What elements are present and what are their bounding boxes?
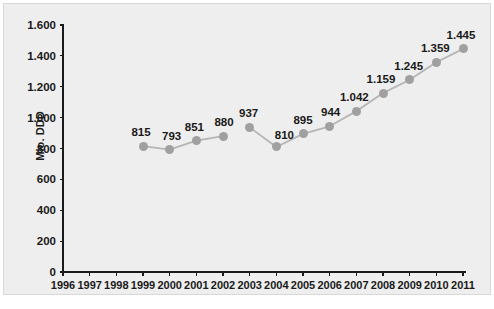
data-point-label: 1.445	[447, 29, 476, 41]
x-axis-tick-label: 2007	[344, 279, 368, 291]
data-point-marker	[352, 107, 361, 116]
data-point-label: 815	[131, 126, 150, 138]
x-axis-tick-label: 2010	[424, 279, 448, 291]
y-axis-tick-label: 1.600	[4, 19, 56, 31]
y-axis-tick-label: 200	[4, 235, 56, 247]
y-axis-tick-label: 600	[4, 173, 56, 185]
data-point-marker	[459, 44, 468, 53]
data-point-label: 1.245	[394, 60, 423, 72]
data-point-label: 810	[275, 129, 294, 141]
data-point-marker	[379, 89, 388, 98]
y-axis-tick-label: 1.000	[4, 112, 56, 124]
x-axis-tick-label: 2004	[264, 279, 288, 291]
data-point-label: 851	[185, 121, 204, 133]
data-point-label: 1.042	[340, 91, 369, 103]
x-axis-tick-label: 2000	[157, 279, 181, 291]
data-point-marker	[139, 142, 148, 151]
data-point-label: 937	[239, 107, 258, 119]
chart-figure: Mio. DDD 02004006008001.0001.2001.4001.6…	[0, 0, 494, 309]
x-axis-tick-label: 2003	[237, 279, 261, 291]
x-axis-tick-label: 2009	[397, 279, 421, 291]
data-point-label: 1.159	[367, 73, 396, 85]
y-axis-tick-label: 1.200	[4, 81, 56, 93]
data-point-label: 880	[214, 116, 233, 128]
y-axis-tick-label: 400	[4, 204, 56, 216]
y-axis-tick-label: 800	[4, 143, 56, 155]
x-axis-tick-label: 2011	[451, 279, 475, 291]
data-point-marker	[325, 122, 334, 131]
data-point-marker	[432, 58, 441, 67]
data-point-label: 895	[293, 114, 312, 126]
data-point-label: 793	[162, 130, 181, 142]
x-axis-tick-label: 2008	[371, 279, 395, 291]
data-point-marker	[219, 132, 228, 141]
x-axis-tick-label: 2001	[184, 279, 208, 291]
x-axis-tick-label: 1996	[51, 279, 75, 291]
data-point-label: 1.359	[421, 42, 450, 54]
chart-plot-panel: Mio. DDD 02004006008001.0001.2001.4001.6…	[3, 3, 491, 295]
data-point-marker	[192, 136, 201, 145]
x-axis-tick-label: 2005	[291, 279, 315, 291]
data-point-marker	[299, 129, 308, 138]
data-point-label: 944	[321, 106, 340, 118]
data-point-marker	[245, 123, 254, 132]
chart-canvas	[4, 4, 491, 295]
x-axis-tick-label: 2006	[317, 279, 341, 291]
y-axis-tick-label: 0	[4, 266, 56, 278]
x-axis-tick-label: 1997	[77, 279, 101, 291]
y-axis-tick-label: 1.400	[4, 50, 56, 62]
x-axis-tick-label: 1999	[131, 279, 155, 291]
x-axis-tick-label: 2002	[211, 279, 235, 291]
y-axis-title: Mio. DDD	[34, 91, 46, 181]
x-axis-tick-label: 1998	[104, 279, 128, 291]
